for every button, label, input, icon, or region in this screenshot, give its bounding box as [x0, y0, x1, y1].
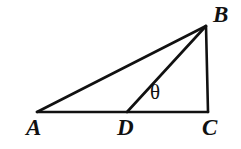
vertex-label-c: C — [202, 116, 217, 139]
angle-label-theta: θ — [150, 82, 160, 103]
geometry-figure: A B C D θ — [0, 0, 241, 149]
vertex-label-b: B — [213, 3, 228, 26]
vertex-label-d: D — [117, 116, 134, 139]
segment-ab — [37, 26, 206, 112]
segment-bc — [206, 26, 208, 112]
segment-db — [127, 26, 206, 112]
vertex-label-a: A — [26, 116, 41, 139]
